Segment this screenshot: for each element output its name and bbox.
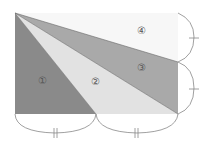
- label-region-3: ③: [137, 62, 146, 73]
- label-region-4: ④: [137, 25, 146, 36]
- right-bracket-top: [178, 13, 194, 62]
- label-region-1: ①: [38, 75, 47, 86]
- right-bracket-bottom: [178, 62, 194, 114]
- bottom-bracket-left: [15, 114, 96, 133]
- rectangle-diagram: ① ② ③ ④: [0, 0, 206, 152]
- bottom-bracket-right: [96, 114, 178, 133]
- label-region-2: ②: [91, 76, 100, 87]
